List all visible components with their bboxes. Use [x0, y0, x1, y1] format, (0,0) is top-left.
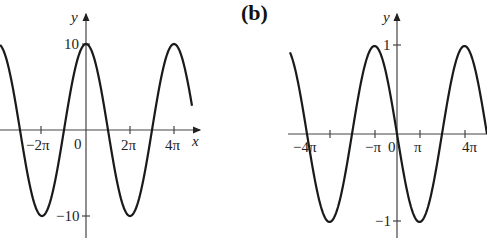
- origin-label: 0: [388, 139, 396, 155]
- y-axis-label: y: [381, 9, 390, 25]
- y-tick-label-neg1: −1: [375, 213, 391, 229]
- x-tick-label-neg4pi: −4π: [293, 139, 317, 155]
- y-tick-label-1: 1: [383, 37, 391, 53]
- x-tick-label-neg2pi: −2π: [26, 137, 50, 153]
- x-tick-label-negpi: −π: [365, 139, 381, 155]
- x-tick-label-pi: π: [414, 139, 422, 155]
- chart-a: y x 0 −2π 2π 4π 10 −10: [0, 9, 200, 238]
- x-tick-label-4pi: 4π: [462, 139, 478, 155]
- x-tick-label-4pi: 4π: [165, 137, 181, 153]
- panel-label-b: (b): [241, 0, 268, 25]
- chart-b: (b) y 0 −4π −π π 4π 1 −1: [241, 0, 487, 238]
- origin-label: 0: [74, 136, 82, 152]
- y-axis-label: y: [69, 9, 78, 25]
- x-axis-label: x: [191, 133, 199, 149]
- y-tick-label-10: 10: [64, 36, 79, 52]
- x-tick-label-2pi: 2π: [121, 137, 137, 153]
- figure: y x 0 −2π 2π 4π 10 −10 (b) y 0 −4π −π π …: [0, 0, 487, 238]
- y-tick-label-neg10: −10: [56, 208, 79, 224]
